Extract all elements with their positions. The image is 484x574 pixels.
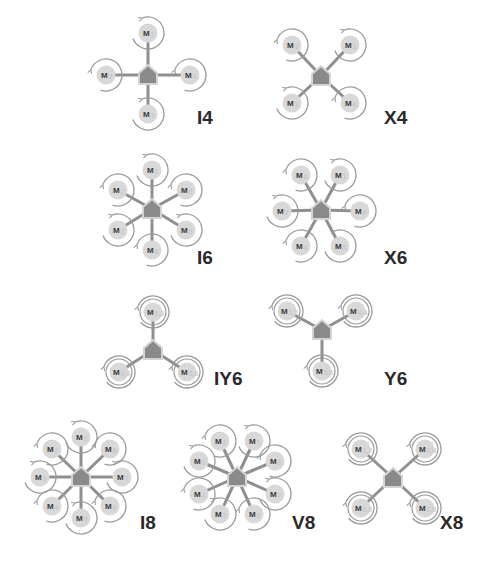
motor-i6-6: M6 xyxy=(168,174,202,206)
arrowhead-icon xyxy=(176,214,180,218)
motor-number: 1 xyxy=(257,439,261,446)
flight-controller-body-icon xyxy=(139,65,157,84)
motor-i6-5: M5 xyxy=(171,214,202,246)
arrowhead-icon xyxy=(265,478,269,482)
motor-number: 3 xyxy=(151,112,155,119)
motor-label: M xyxy=(215,510,222,519)
motor-number: 1 xyxy=(155,168,159,175)
motor-number: 3 xyxy=(295,101,299,108)
motor-label: M xyxy=(335,242,342,251)
motor-label: M xyxy=(215,437,222,446)
motor-number: 4 xyxy=(155,248,159,255)
motor-label: M xyxy=(147,246,154,255)
motor-number: 8 xyxy=(278,459,282,466)
motor-number: 1 xyxy=(84,435,88,442)
arrowhead-icon xyxy=(181,489,185,493)
motor-y6-3-4: M3,4 xyxy=(338,295,372,327)
flight-controller-body-icon xyxy=(312,200,330,219)
arrowhead-icon xyxy=(108,214,112,218)
arrowhead-icon xyxy=(304,366,308,370)
frame-v8: M2M1M3M8M4M7M5M6V8 xyxy=(181,425,316,533)
flight-controller-body-icon xyxy=(313,320,331,339)
flight-controller-body-icon xyxy=(143,199,161,218)
motor-x8-1-2: M1,2 xyxy=(343,433,377,465)
arrowhead-icon xyxy=(274,40,278,44)
frame-label: I4 xyxy=(197,107,213,128)
arrowhead-icon xyxy=(168,185,172,189)
motor-label: M xyxy=(143,29,150,38)
motor-label: M xyxy=(345,41,352,50)
motor-label: M xyxy=(185,71,192,80)
flight-controller-body-icon xyxy=(144,340,162,359)
motor-number: 2 xyxy=(295,43,299,50)
arrowhead-icon xyxy=(272,195,276,199)
motor-number: 3 xyxy=(285,209,289,216)
motor-label: M xyxy=(113,368,120,377)
motor-label: M xyxy=(181,186,188,195)
motor-v8-5: M5 xyxy=(205,498,236,530)
motor-label: M xyxy=(296,171,303,180)
motor-label: M xyxy=(194,490,201,499)
motor-x4-3: M3 xyxy=(277,87,308,119)
motor-number: 1,2 xyxy=(289,309,299,317)
motor-label: M xyxy=(355,207,362,216)
motor-number: 4 xyxy=(304,244,308,251)
motor-number: 6 xyxy=(113,504,117,511)
motor-label: M xyxy=(76,433,83,442)
motor-number: 2 xyxy=(304,173,308,180)
motor-number: 7 xyxy=(125,475,129,482)
arrowhead-icon xyxy=(138,17,142,21)
motor-number: 1,2 xyxy=(155,310,165,318)
motor-number: 3 xyxy=(202,459,206,466)
motor-x8-5-6: M5,6 xyxy=(343,492,377,524)
motor-number: 2 xyxy=(121,188,125,195)
motor-number: 3,4 xyxy=(358,309,368,317)
arrowhead-icon xyxy=(210,498,214,502)
motor-number: 4 xyxy=(202,492,206,499)
motor-i8-4: M4 xyxy=(34,490,68,522)
motor-label: M xyxy=(101,71,108,80)
frame-y6: M1,2M3,4M5,6Y6 xyxy=(269,295,408,389)
arrowhead-icon xyxy=(142,154,146,158)
arrowhead-icon xyxy=(283,241,287,245)
arrowhead-icon xyxy=(330,159,334,163)
arrowhead-icon xyxy=(169,367,173,371)
motor-y6-1-2: M1,2 xyxy=(269,295,303,327)
motor-label: M xyxy=(105,445,112,454)
arrowhead-icon xyxy=(71,502,75,506)
arrowhead-icon xyxy=(92,501,96,505)
frame-label: V8 xyxy=(292,512,315,533)
motor-number: 8 xyxy=(113,447,117,454)
motor-label: M xyxy=(181,368,188,377)
motor-number: 1 xyxy=(353,43,357,50)
motor-v8-6: M6 xyxy=(236,498,270,530)
frame-i6: M1M2M6M3M5M4I6 xyxy=(100,154,213,268)
arrowhead-icon xyxy=(407,444,411,448)
frame-label: X4 xyxy=(384,107,408,128)
frame-label: I6 xyxy=(197,247,213,268)
motor-number: 4 xyxy=(55,504,59,511)
motor-label: M xyxy=(47,445,54,454)
motor-label: M xyxy=(355,445,362,454)
frame-label: X6 xyxy=(384,247,407,268)
motor-v8-1: M1 xyxy=(239,425,270,457)
arrowhead-icon xyxy=(71,421,75,425)
motor-label: M xyxy=(270,457,277,466)
motor-label: M xyxy=(113,226,120,235)
motor-number: 1 xyxy=(343,173,347,180)
motor-label: M xyxy=(105,502,112,511)
arrowhead-icon xyxy=(101,367,105,371)
motor-x6-4: M4 xyxy=(283,230,317,262)
motor-label: M xyxy=(35,473,42,482)
motor-label: M xyxy=(147,308,154,317)
motor-v8-7: M7 xyxy=(260,478,291,510)
frame-label: IY6 xyxy=(214,368,243,389)
motor-label: M xyxy=(419,504,426,513)
motor-number: 2 xyxy=(55,447,59,454)
motor-v8-3: M3 xyxy=(184,445,215,477)
arrowhead-icon xyxy=(189,445,193,449)
motor-x6-1: M1 xyxy=(325,159,356,191)
motor-i8-2: M2 xyxy=(34,433,68,465)
motor-iy6-5-6: M5,6 xyxy=(169,356,203,388)
motor-number: 5,6 xyxy=(189,370,199,378)
